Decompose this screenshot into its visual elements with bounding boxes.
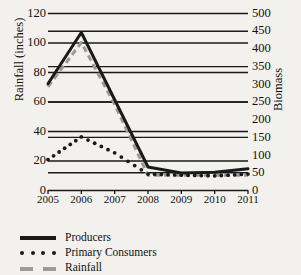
chart-figure: Rainfall (inches) Biomass 120 100 80 60 … bbox=[0, 0, 301, 275]
x-axis-ticks: 2005 2006 2007 2008 2009 2010 2011 bbox=[48, 194, 248, 210]
x-tick-2010: 2010 bbox=[198, 194, 232, 205]
legend-item-primary-consumers: Primary Consumers bbox=[18, 246, 258, 260]
legend-item-producers: Producers bbox=[18, 231, 258, 245]
chart-legend: Producers Primary Consumers Rainfall bbox=[18, 231, 258, 275]
x-tick-2005: 2005 bbox=[31, 194, 65, 205]
legend-label-rainfall: Rainfall bbox=[65, 262, 102, 274]
x-tick-2009: 2009 bbox=[164, 194, 198, 205]
x-tick-2008: 2008 bbox=[131, 194, 165, 205]
series-line-producers bbox=[48, 32, 248, 173]
series-line-rainfall bbox=[48, 43, 248, 176]
legend-label-producers: Producers bbox=[65, 232, 111, 244]
legend-item-rainfall: Rainfall bbox=[18, 261, 258, 275]
legend-marker-solid-line-icon bbox=[18, 231, 58, 245]
legend-label-primary-consumers: Primary Consumers bbox=[65, 247, 157, 259]
legend-marker-dashed-line-icon bbox=[18, 261, 58, 275]
x-tick-2007: 2007 bbox=[98, 194, 132, 205]
x-tick-2011: 2011 bbox=[231, 194, 265, 205]
x-tick-2006: 2006 bbox=[64, 194, 98, 205]
legend-marker-dotted-line-icon bbox=[18, 246, 58, 260]
